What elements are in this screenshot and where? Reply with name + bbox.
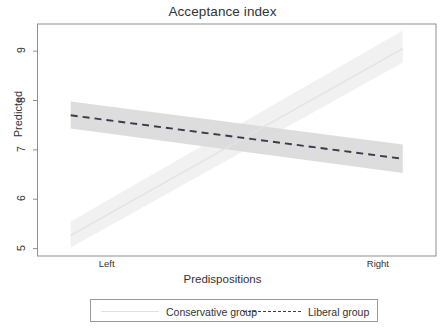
legend-item-liberal: Liberal group — [243, 300, 369, 323]
legend-item-conservative: Conservative group — [101, 300, 257, 323]
x-axis-title: Predispositions — [0, 273, 445, 285]
dashed-line-key — [243, 307, 301, 317]
solid-line-key — [101, 307, 159, 317]
acceptance-index-chart: Acceptance index Predicted 56789 LeftRig… — [0, 0, 445, 328]
chart-legend: Conservative group Liberal group — [90, 299, 378, 322]
confidence-bands — [71, 30, 403, 247]
legend-label-liberal: Liberal group — [308, 306, 369, 318]
